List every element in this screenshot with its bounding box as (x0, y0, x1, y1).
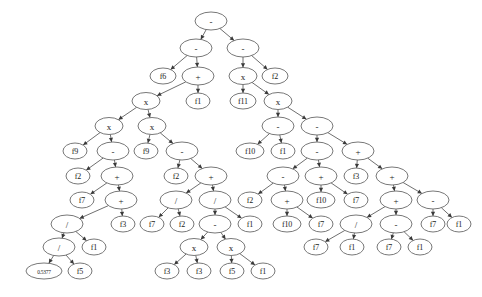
edge-arrow-icon (317, 163, 321, 167)
tree-node-operator[interactable]: x (95, 118, 123, 135)
edge-arrow-icon (177, 164, 181, 169)
node-label: + (115, 172, 120, 182)
tree-node-terminal[interactable]: f10 (273, 216, 301, 232)
edge-arrow-icon (61, 234, 65, 239)
tree-node-operator[interactable]: - (199, 215, 231, 233)
tree-node-operator[interactable]: - (380, 215, 412, 233)
tree-node-operator[interactable]: / (199, 191, 231, 209)
node-label: + (196, 72, 201, 82)
tree-node-operator[interactable]: x (138, 118, 166, 135)
tree-node-operator[interactable]: - (262, 117, 294, 135)
tree-node-terminal[interactable]: f3 (155, 263, 179, 279)
tree-node-terminal[interactable]: f1 (82, 239, 106, 255)
node-label: f7 (353, 196, 359, 205)
tree-node-terminal[interactable]: f2 (262, 68, 288, 84)
edge-arrow-icon (229, 259, 233, 263)
tree-node-terminal[interactable]: f1 (251, 263, 275, 279)
node-label: + (209, 172, 214, 182)
tree-node-terminal[interactable]: f9 (63, 143, 87, 159)
tree-node-operator[interactable]: - (97, 142, 129, 160)
tree-node-terminal[interactable]: f2 (238, 192, 262, 208)
tree-node-terminal[interactable]: f7 (344, 192, 368, 208)
edge-arrow-icon (194, 259, 198, 264)
node-label: f2 (173, 172, 179, 181)
tree-node-terminal[interactable]: f7 (140, 216, 164, 232)
tree-node-terminal[interactable]: f7 (304, 239, 328, 255)
tree-node-terminal[interactable]: f1 (271, 143, 295, 159)
tree-node-terminal[interactable]: f9 (134, 143, 158, 159)
tree-node-terminal[interactable]: f1 (408, 239, 432, 255)
tree-node-operator[interactable]: / (340, 215, 372, 233)
tree-node-terminal[interactable]: f3 (187, 263, 211, 279)
node-label: f5 (77, 267, 83, 276)
node-label: f7 (79, 196, 85, 205)
tree-node-operator[interactable]: + (105, 191, 137, 209)
edge-arrow-icon (86, 166, 91, 170)
tree-node-operator[interactable]: / (51, 215, 83, 233)
edge-arrow-icon (118, 116, 123, 120)
tree-node-terminal[interactable]: f7 (421, 216, 445, 232)
tree-node-terminal[interactable]: f11 (230, 93, 256, 109)
node-label: f5 (229, 267, 235, 276)
edge-arrow-icon (147, 139, 151, 144)
node-label: - (282, 172, 285, 182)
tree-node-operator[interactable]: - (301, 117, 333, 135)
tree-node-operator[interactable]: - (195, 12, 227, 30)
edge-arrow-icon (315, 138, 319, 142)
edge-arrow-icon (113, 163, 117, 167)
tree-node-terminal[interactable]: f2 (170, 216, 194, 232)
tree-node-operator[interactable]: + (271, 191, 303, 209)
tree-node-operator[interactable]: x (132, 93, 160, 110)
tree-node-terminal[interactable]: f2 (66, 168, 90, 184)
node-label: f3 (164, 267, 170, 276)
tree-node-terminal[interactable]: f5 (68, 263, 92, 279)
edge-arrow-icon (83, 141, 88, 145)
tree-node-operator[interactable]: - (227, 39, 259, 57)
tree-node-operator[interactable]: - (301, 142, 333, 160)
tree-node-terminal[interactable]: f7 (70, 192, 94, 208)
tree-node-operator[interactable]: + (101, 167, 133, 185)
edge-arrow-icon (241, 89, 245, 93)
tree-node-operator[interactable]: - (417, 191, 449, 209)
tree-node-operator[interactable]: + (305, 167, 337, 185)
tree-node-operator[interactable]: + (376, 167, 408, 185)
tree-node-terminal[interactable]: f1 (186, 93, 210, 109)
tree-node-operator[interactable]: - (267, 167, 299, 185)
tree-node-terminal[interactable]: f3 (111, 216, 135, 232)
tree-node-terminal[interactable]: f2 (164, 168, 188, 184)
tree-node-operator[interactable]: + (342, 142, 374, 160)
tree-node-operator[interactable]: + (380, 191, 412, 209)
edge-arrow-icon (431, 212, 435, 216)
tree-node-terminal[interactable]: f1 (238, 216, 262, 232)
tree-node-operator[interactable]: x (217, 239, 245, 256)
node-label: - (195, 44, 198, 54)
tree-node-terminal[interactable]: f5 (220, 263, 244, 279)
tree-node-terminal[interactable]: f3 (344, 168, 368, 184)
edge-arrow-icon (195, 63, 199, 67)
node-label: x (107, 122, 112, 132)
tree-node-operator[interactable]: x (180, 239, 208, 256)
tree-node-operator[interactable]: + (195, 167, 227, 185)
tree-node-operator[interactable]: x (264, 93, 292, 110)
edge-arrow-icon (392, 187, 396, 191)
node-label: - (242, 44, 245, 54)
edge-arrow-icon (343, 190, 348, 194)
node-label: f1 (260, 267, 266, 276)
tree-node-operator[interactable]: x (229, 68, 257, 85)
tree-node-operator[interactable]: + (182, 67, 214, 85)
tree-node-terminal[interactable]: f1 (340, 239, 364, 255)
tree-node-terminal[interactable]: f7 (377, 239, 401, 255)
tree-node-terminal[interactable]: f10 (307, 192, 335, 208)
tree-node-operator[interactable]: - (166, 142, 198, 160)
tree-node-terminal[interactable]: f6 (150, 68, 176, 84)
tree-node-terminal[interactable]: f1 (447, 216, 471, 232)
edge-arrow-icon (237, 214, 242, 218)
edge-arrow-icon (285, 212, 289, 216)
tree-node-operator[interactable]: / (160, 191, 192, 209)
tree-node-terminal[interactable]: f7 (309, 216, 333, 232)
tree-node-terminal[interactable]: f10 (236, 143, 264, 159)
tree-node-operator[interactable]: - (180, 39, 212, 57)
tree-node-operator[interactable]: / (43, 238, 75, 256)
tree-node-constant[interactable]: 0.5377 (26, 263, 62, 279)
node-label: - (181, 147, 184, 157)
